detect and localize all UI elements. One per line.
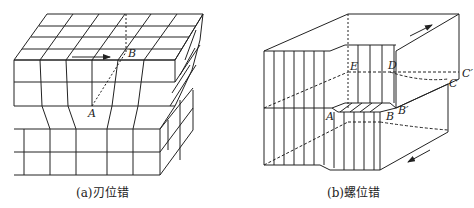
label-b-a: B [127, 47, 136, 60]
label-d-b: D [387, 59, 397, 72]
caption-edge-dislocation: (a)刃位错 [76, 183, 129, 200]
screw-dislocation-figure [264, 14, 459, 170]
shear-arrow-top [410, 25, 432, 36]
label-a-a: A [87, 107, 96, 120]
label-b-b: B [385, 110, 394, 123]
edge-dislocation-figure [14, 14, 203, 175]
label-b-prime-b: B′ [397, 104, 409, 117]
label-e-b: E [349, 60, 358, 73]
label-c-prime-b: C′ [462, 67, 473, 80]
right-face-grid [160, 14, 203, 175]
top-face-grid [14, 14, 203, 60]
dislocation-diagram: B A [0, 0, 474, 208]
shear-arrow-bottom [408, 150, 430, 162]
label-a-b: A [325, 110, 334, 123]
caption-screw-dislocation: (b)螺位错 [327, 183, 380, 200]
label-c-b: C [449, 77, 458, 90]
